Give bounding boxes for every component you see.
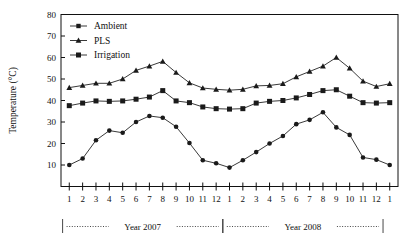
legend-label-irrigation: Irrigation	[94, 50, 130, 60]
marker-irrigation-18	[307, 92, 312, 97]
x-tick-label-20: 9	[334, 194, 339, 204]
marker-pls-18	[307, 69, 313, 74]
x-tick-label-9: 10	[185, 194, 195, 204]
marker-irrigation-15	[267, 99, 272, 104]
marker-irrigation-1	[80, 101, 85, 106]
x-tick-label-22: 11	[359, 194, 368, 204]
marker-ambient-12	[227, 165, 232, 170]
legend-label-pls: PLS	[94, 36, 110, 46]
marker-ambient-2	[94, 138, 99, 143]
temperature-line-chart: 1020304050607080Temperature (°C)12345678…	[0, 0, 420, 249]
marker-ambient-4	[120, 130, 125, 135]
x-tick-label-3: 4	[107, 194, 112, 204]
y-tick-label-30: 30	[47, 117, 57, 127]
marker-irrigation-24	[387, 100, 392, 105]
marker-irrigation-6	[147, 95, 152, 100]
year-label-year-2007: Year 2007	[124, 222, 161, 232]
marker-ambient-17	[294, 122, 299, 127]
x-tick-label-19: 8	[321, 194, 326, 204]
x-tick-label-16: 5	[281, 194, 286, 204]
x-tick-label-0: 1	[67, 194, 72, 204]
marker-irrigation-4	[120, 98, 125, 103]
marker-ambient-20	[334, 125, 339, 130]
x-tick-label-14: 3	[254, 194, 259, 204]
marker-pls-10	[200, 85, 206, 90]
marker-ambient-23	[374, 157, 379, 162]
marker-ambient-3	[107, 128, 112, 133]
marker-ambient-0	[67, 163, 72, 168]
marker-ambient-14	[254, 150, 259, 155]
marker-pls-7	[160, 58, 166, 63]
series-line-irrigation	[69, 90, 389, 109]
marker-irrigation-16	[280, 98, 285, 103]
marker-irrigation-7	[160, 88, 165, 93]
marker-ambient-21	[347, 133, 352, 138]
marker-pls-4	[120, 76, 126, 81]
marker-pls-17	[293, 74, 299, 79]
marker-irrigation-21	[347, 94, 352, 99]
legend-marker-irrigation	[76, 53, 81, 58]
x-tick-label-24: 1	[387, 194, 392, 204]
x-tick-label-8: 9	[174, 194, 179, 204]
legend-marker-ambient	[76, 24, 80, 28]
x-tick-label-23: 12	[372, 194, 381, 204]
y-tick-label-10: 10	[47, 160, 57, 170]
y-tick-label-70: 70	[47, 31, 57, 41]
marker-ambient-1	[80, 156, 85, 161]
marker-irrigation-22	[361, 100, 366, 105]
x-tick-label-13: 2	[241, 194, 246, 204]
marker-ambient-8	[174, 124, 179, 129]
marker-irrigation-10	[200, 104, 205, 109]
marker-ambient-6	[147, 114, 152, 119]
x-tick-label-18: 7	[307, 194, 312, 204]
marker-irrigation-9	[187, 100, 192, 105]
series-line-pls	[69, 58, 389, 91]
marker-pls-20	[333, 55, 339, 60]
marker-ambient-16	[281, 134, 286, 139]
x-tick-label-5: 6	[134, 194, 139, 204]
x-tick-label-1: 2	[80, 194, 85, 204]
x-tick-label-11: 12	[212, 194, 221, 204]
marker-irrigation-19	[320, 88, 325, 93]
marker-irrigation-2	[93, 98, 98, 103]
marker-ambient-24	[387, 163, 392, 168]
x-tick-label-4: 5	[120, 194, 125, 204]
y-tick-label-80: 80	[47, 10, 57, 20]
legend-label-ambient: Ambient	[94, 21, 128, 31]
y-tick-label-60: 60	[47, 53, 57, 63]
chart-canvas: 1020304050607080Temperature (°C)12345678…	[0, 0, 420, 249]
marker-ambient-7	[160, 115, 165, 120]
series-line-ambient	[69, 112, 389, 167]
marker-ambient-11	[214, 161, 219, 166]
marker-irrigation-13	[240, 106, 245, 111]
x-tick-label-21: 10	[345, 194, 355, 204]
marker-ambient-9	[187, 141, 192, 146]
marker-irrigation-23	[374, 101, 379, 106]
x-tick-label-10: 11	[198, 194, 207, 204]
x-tick-label-6: 7	[147, 194, 152, 204]
marker-irrigation-12	[227, 107, 232, 112]
marker-ambient-22	[361, 155, 366, 160]
marker-irrigation-5	[134, 97, 139, 102]
x-tick-label-7: 8	[160, 194, 165, 204]
x-tick-label-2: 3	[94, 194, 99, 204]
marker-ambient-5	[134, 120, 139, 125]
year-label-year-2008: Year 2008	[285, 222, 322, 232]
y-tick-label-20: 20	[47, 139, 57, 149]
x-tick-label-17: 6	[294, 194, 299, 204]
marker-irrigation-11	[214, 106, 219, 111]
marker-irrigation-8	[174, 98, 179, 103]
marker-ambient-15	[267, 141, 272, 146]
marker-irrigation-0	[67, 103, 72, 108]
marker-irrigation-17	[294, 95, 299, 100]
x-tick-label-15: 4	[267, 194, 272, 204]
marker-ambient-19	[321, 110, 326, 115]
marker-ambient-18	[307, 118, 312, 123]
marker-pls-16	[280, 81, 286, 86]
marker-ambient-13	[241, 158, 246, 163]
marker-irrigation-20	[334, 87, 339, 92]
y-tick-label-40: 40	[47, 96, 57, 106]
x-tick-label-12: 1	[227, 194, 232, 204]
y-axis-title: Temperature (°C)	[8, 67, 19, 134]
marker-irrigation-14	[254, 101, 259, 106]
